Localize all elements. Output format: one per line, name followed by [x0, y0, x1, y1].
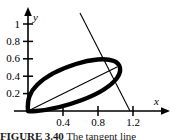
y-tick-label-0.2: 0.2	[0, 88, 20, 99]
x-tick-label-0.4: 0.4	[49, 117, 77, 128]
y-tick-label-0.8: 0.8	[0, 36, 20, 47]
y-tick-label-0.6: 0.6	[0, 53, 20, 64]
x-tick-label-1.2: 1.2	[119, 117, 147, 128]
y-axis-arrowhead	[24, 7, 32, 16]
x-axis-arrowhead	[161, 107, 170, 115]
figure-caption-label: FIGURE 3.40	[0, 130, 64, 140]
loop-curve	[28, 59, 120, 111]
figure-caption: FIGURE 3.40 The tangent line	[0, 130, 176, 140]
figure-caption-text: The tangent line	[66, 130, 136, 140]
x-tick-label-0.8: 0.8	[84, 117, 112, 128]
y-axis-label: y	[33, 12, 38, 23]
x-axis-label: x	[154, 96, 159, 107]
y-tick-label-1: 1	[0, 19, 20, 30]
figure-container: 1 0.8 0.6 0.4 0.2 0.4 0.8 1.2 y x FIGURE…	[0, 0, 176, 140]
y-tick-label-0.4: 0.4	[0, 71, 20, 82]
